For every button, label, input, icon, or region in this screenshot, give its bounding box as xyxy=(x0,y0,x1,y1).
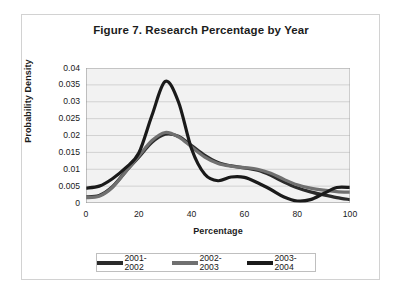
x-tick-label: 40 xyxy=(172,210,212,219)
legend-label: 2001-2002 xyxy=(125,254,165,271)
legend-swatch-icon xyxy=(172,261,198,265)
figure-root: Figure 7. Research Percentage by Year Pr… xyxy=(0,0,402,295)
plot-area xyxy=(86,68,350,203)
legend-label: 2002-2003 xyxy=(200,254,240,271)
chart-legend: 2001-20022002-20032003-2004 xyxy=(96,253,316,272)
legend-item[interactable]: 2001-2002 xyxy=(97,254,165,271)
y-tick-label: 0 xyxy=(34,199,80,208)
y-tick-label: 0.025 xyxy=(34,114,80,123)
y-axis-label: Probability Density xyxy=(23,46,33,156)
x-axis-label: Percentage xyxy=(86,226,350,236)
y-tick-label: 0.02 xyxy=(34,131,80,140)
legend-label: 2003-2004 xyxy=(275,254,315,271)
legend-item[interactable]: 2003-2004 xyxy=(247,254,315,271)
y-tick-label: 0.035 xyxy=(34,80,80,89)
x-tick-label: 80 xyxy=(277,210,317,219)
x-tick-label: 20 xyxy=(119,210,159,219)
x-tick-label: 100 xyxy=(330,210,370,219)
y-tick-label: 0.04 xyxy=(34,64,80,73)
chart-title: Figure 7. Research Percentage by Year xyxy=(30,24,372,36)
legend-item[interactable]: 2002-2003 xyxy=(172,254,240,271)
y-tick-label: 0.015 xyxy=(34,148,80,157)
y-tick-label: 0.03 xyxy=(34,97,80,106)
x-tick-label: 0 xyxy=(66,210,106,219)
legend-swatch-icon xyxy=(247,261,273,265)
y-tick-label: 0.01 xyxy=(34,165,80,174)
y-tick-label: 0.005 xyxy=(34,182,80,191)
x-tick-label: 60 xyxy=(224,210,264,219)
legend-swatch-icon xyxy=(97,261,123,265)
